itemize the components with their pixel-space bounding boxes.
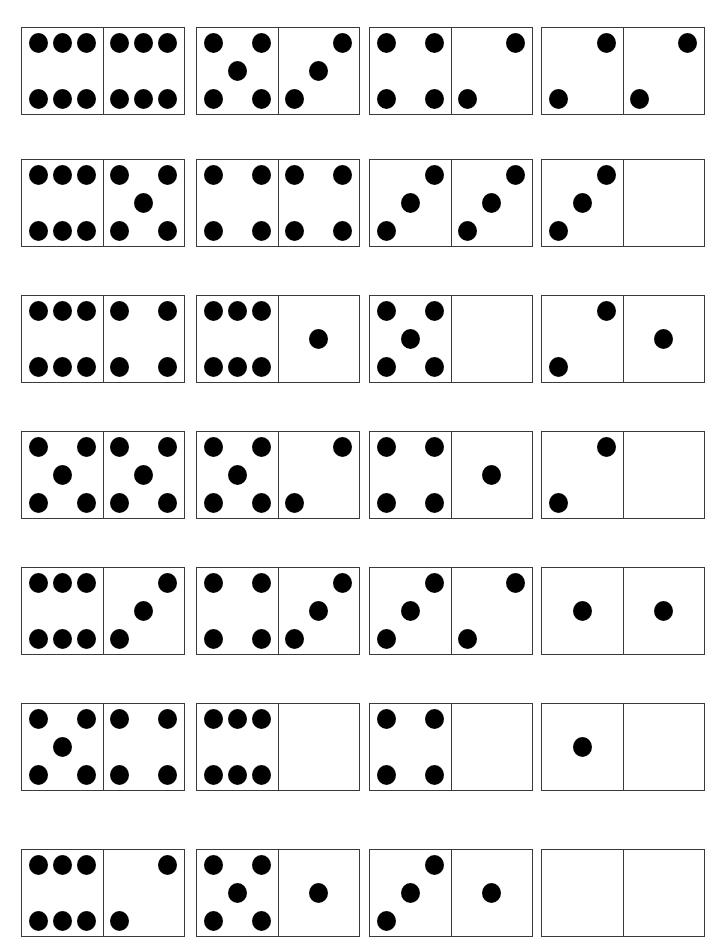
pip-dot-icon bbox=[158, 33, 177, 53]
domino-half-right bbox=[279, 704, 360, 790]
pip-dot-icon bbox=[158, 221, 177, 241]
pip-dot-icon bbox=[77, 165, 96, 185]
pip-dot-icon bbox=[53, 573, 72, 593]
domino-half-left bbox=[542, 432, 624, 518]
pip-dot-icon bbox=[377, 765, 396, 785]
domino-half-left bbox=[22, 160, 104, 246]
domino-half-right bbox=[104, 850, 185, 936]
pip-dot-icon bbox=[458, 89, 477, 109]
pip-dot-icon bbox=[377, 89, 396, 109]
domino-tile bbox=[196, 27, 360, 115]
pip-dot-icon bbox=[110, 33, 129, 53]
domino-tile bbox=[541, 295, 705, 383]
domino-tile bbox=[541, 159, 705, 247]
domino-half-right bbox=[624, 704, 705, 790]
pip-dot-icon bbox=[204, 573, 223, 593]
pip-dot-icon bbox=[204, 89, 223, 109]
pip-dot-icon bbox=[425, 165, 444, 185]
pip-dot-icon bbox=[425, 573, 444, 593]
pip-dot-icon bbox=[204, 33, 223, 53]
domino-tile bbox=[369, 567, 533, 655]
pip-dot-icon bbox=[110, 765, 129, 785]
domino-half-right bbox=[279, 432, 360, 518]
domino-tile bbox=[21, 295, 185, 383]
pip-dot-icon bbox=[333, 221, 352, 241]
pip-dot-icon bbox=[630, 89, 649, 109]
domino-half-left bbox=[542, 850, 624, 936]
pip-dot-icon bbox=[110, 357, 129, 377]
domino-tile bbox=[196, 295, 360, 383]
pip-dot-icon bbox=[333, 33, 352, 53]
pip-dot-icon bbox=[425, 765, 444, 785]
domino-tile bbox=[21, 567, 185, 655]
pip-dot-icon bbox=[228, 465, 247, 485]
domino-half-left bbox=[542, 28, 624, 114]
pip-dot-icon bbox=[549, 221, 568, 241]
pip-dot-icon bbox=[252, 765, 271, 785]
pip-dot-icon bbox=[77, 911, 96, 931]
domino-half-right bbox=[452, 432, 533, 518]
pip-dot-icon bbox=[285, 221, 304, 241]
pip-dot-icon bbox=[204, 357, 223, 377]
domino-half-right bbox=[624, 160, 705, 246]
domino-half-left bbox=[22, 704, 104, 790]
pip-dot-icon bbox=[134, 33, 153, 53]
pip-dot-icon bbox=[252, 221, 271, 241]
domino-tile bbox=[541, 703, 705, 791]
domino-half-left bbox=[197, 296, 279, 382]
pip-dot-icon bbox=[425, 33, 444, 53]
pip-dot-icon bbox=[77, 573, 96, 593]
pip-dot-icon bbox=[29, 357, 48, 377]
domino-tile bbox=[196, 703, 360, 791]
pip-dot-icon bbox=[110, 301, 129, 321]
domino-tile bbox=[196, 567, 360, 655]
pip-dot-icon bbox=[158, 493, 177, 513]
pip-dot-icon bbox=[77, 89, 96, 109]
pip-dot-icon bbox=[228, 709, 247, 729]
pip-dot-icon bbox=[377, 911, 396, 931]
domino-tile bbox=[21, 431, 185, 519]
pip-dot-icon bbox=[377, 301, 396, 321]
pip-dot-icon bbox=[204, 437, 223, 457]
pip-dot-icon bbox=[228, 883, 247, 903]
domino-half-left bbox=[22, 296, 104, 382]
domino-half-right bbox=[104, 28, 185, 114]
pip-dot-icon bbox=[401, 329, 420, 349]
domino-half-right bbox=[279, 28, 360, 114]
pip-dot-icon bbox=[77, 765, 96, 785]
pip-dot-icon bbox=[252, 165, 271, 185]
pip-dot-icon bbox=[158, 301, 177, 321]
pip-dot-icon bbox=[29, 765, 48, 785]
pip-dot-icon bbox=[654, 601, 673, 621]
pip-dot-icon bbox=[506, 33, 525, 53]
pip-dot-icon bbox=[228, 357, 247, 377]
domino-half-right bbox=[452, 28, 533, 114]
pip-dot-icon bbox=[309, 601, 328, 621]
pip-dot-icon bbox=[309, 329, 328, 349]
domino-half-left bbox=[370, 704, 452, 790]
domino-tile bbox=[196, 849, 360, 937]
domino-half-right bbox=[104, 704, 185, 790]
domino-tile bbox=[196, 431, 360, 519]
pip-dot-icon bbox=[377, 221, 396, 241]
pip-dot-icon bbox=[77, 437, 96, 457]
domino-half-right bbox=[104, 568, 185, 654]
domino-half-right bbox=[624, 568, 705, 654]
pip-dot-icon bbox=[654, 329, 673, 349]
pip-dot-icon bbox=[425, 493, 444, 513]
pip-dot-icon bbox=[252, 573, 271, 593]
domino-tile bbox=[196, 159, 360, 247]
domino-half-left bbox=[542, 704, 624, 790]
domino-half-left bbox=[22, 432, 104, 518]
pip-dot-icon bbox=[53, 629, 72, 649]
pip-dot-icon bbox=[573, 193, 592, 213]
domino-tile bbox=[21, 703, 185, 791]
domino-half-left bbox=[197, 28, 279, 114]
domino-tile bbox=[541, 567, 705, 655]
domino-half-left bbox=[370, 568, 452, 654]
pip-dot-icon bbox=[77, 357, 96, 377]
pip-dot-icon bbox=[53, 855, 72, 875]
domino-half-right bbox=[452, 296, 533, 382]
domino-half-right bbox=[452, 568, 533, 654]
pip-dot-icon bbox=[425, 709, 444, 729]
